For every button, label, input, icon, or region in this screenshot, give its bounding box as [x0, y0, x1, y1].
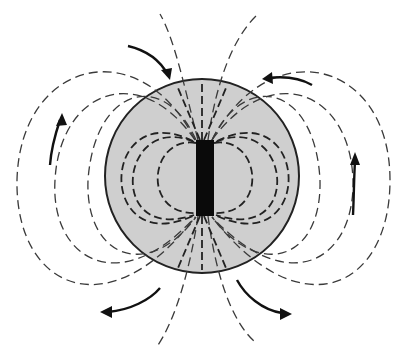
magnetic-field-diagram — [0, 0, 403, 360]
bar-magnet — [196, 140, 214, 216]
